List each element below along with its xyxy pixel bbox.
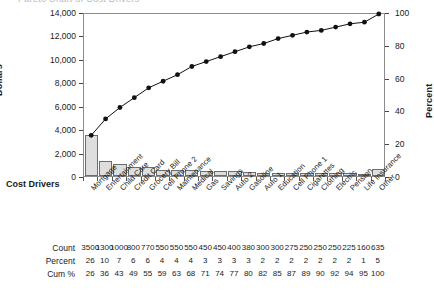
y-left-tickmark: [79, 177, 83, 178]
y-left-tickmark: [79, 154, 83, 155]
y-left-tickmark: [79, 36, 83, 37]
count-cell: 380: [242, 243, 255, 252]
cum-percent-cell: 36: [100, 269, 109, 278]
count-cell: 160: [357, 243, 370, 252]
cum-percent-cell: 49: [129, 269, 138, 278]
y-right-tickmark: [385, 46, 389, 47]
count-cell: 550: [170, 243, 183, 252]
percent-cell: 2: [289, 256, 293, 265]
percent-cell: 2: [275, 256, 279, 265]
cum-percent-cell: 59: [158, 269, 167, 278]
table-row-count: Count 3500130010008007705505505504504504…: [0, 243, 434, 256]
count-cell: 250: [328, 243, 341, 252]
percent-cell: 2: [347, 256, 351, 265]
count-cell: 770: [141, 243, 154, 252]
cum-percent-cell: 82: [258, 269, 267, 278]
y-right-tickmark: [385, 144, 389, 145]
table-row-percent: Percent 26107664443333222222215: [0, 256, 434, 269]
percent-cell: 6: [131, 256, 135, 265]
cum-percent-cell: 89: [301, 269, 310, 278]
count-cell: 400: [227, 243, 240, 252]
percent-cell: 7: [117, 256, 121, 265]
cum-percent-cell: 95: [359, 269, 368, 278]
cum-percent-cell: 77: [230, 269, 239, 278]
count-cell: 450: [213, 243, 226, 252]
percent-cell: 2: [332, 256, 336, 265]
cum-percent-cell: 68: [186, 269, 195, 278]
y-right-tickmark: [385, 13, 389, 14]
cum-percent-cell: 90: [316, 269, 325, 278]
y-right-tickmark: [385, 177, 389, 178]
y-right-tickmark: [385, 111, 389, 112]
percent-cell: 3: [246, 256, 250, 265]
cum-percent-cell: 94: [345, 269, 354, 278]
cum-percent-cell: 85: [273, 269, 282, 278]
percent-cell: 2: [304, 256, 308, 265]
cum-percent-cell: 26: [86, 269, 95, 278]
row-header-cum-percent: Cum %: [0, 269, 75, 279]
percent-cell: 2: [261, 256, 265, 265]
data-table: Count 3500130010008007705505505504504504…: [0, 243, 434, 282]
count-cell: 300: [270, 243, 283, 252]
count-cell: 635: [371, 243, 384, 252]
y-left-tickmark: [79, 60, 83, 61]
count-cell: 250: [299, 243, 312, 252]
count-cell: 225: [342, 243, 355, 252]
count-cell: 800: [127, 243, 140, 252]
count-cell: 300: [256, 243, 269, 252]
cum-percent-cell: 92: [330, 269, 339, 278]
row-header-count: Count: [0, 243, 75, 253]
percent-cell: 10: [100, 256, 109, 265]
percent-cell: 3: [232, 256, 236, 265]
percent-cell: 26: [86, 256, 95, 265]
percent-cell: 4: [189, 256, 193, 265]
cum-percent-cell: 100: [371, 269, 384, 278]
y-left-tickmark: [79, 13, 83, 14]
count-cell: 250: [314, 243, 327, 252]
count-cell: 450: [199, 243, 212, 252]
cum-percent-cell: 63: [172, 269, 181, 278]
percent-cell: 4: [174, 256, 178, 265]
count-cell: 550: [155, 243, 168, 252]
count-cell: 550: [184, 243, 197, 252]
count-cell: 275: [285, 243, 298, 252]
y-left-tickmark: [79, 83, 83, 84]
cum-percent-cell: 43: [114, 269, 123, 278]
y-left-tickmark: [79, 107, 83, 108]
percent-cell: 5: [376, 256, 380, 265]
pareto-chart-figure: Pareto Chart of Cost Drivers 02,0004,000…: [0, 0, 434, 290]
percent-cell: 2: [318, 256, 322, 265]
y-left-tickmark: [79, 130, 83, 131]
row-header-percent: Percent: [0, 256, 75, 266]
cum-percent-cell: 87: [287, 269, 296, 278]
percent-cell: 1: [361, 256, 365, 265]
percent-cell: 3: [217, 256, 221, 265]
percent-cell: 6: [145, 256, 149, 265]
percent-cell: 3: [203, 256, 207, 265]
cum-percent-cell: 80: [244, 269, 253, 278]
percent-cell: 4: [160, 256, 164, 265]
table-row-cum-percent: Cum % 2636434955596368717477808285878990…: [0, 269, 434, 282]
y-right-tickmark: [385, 79, 389, 80]
cum-percent-cell: 71: [201, 269, 210, 278]
cum-percent-cell: 74: [215, 269, 224, 278]
count-cell: 1000: [110, 243, 128, 252]
cum-percent-cell: 55: [143, 269, 152, 278]
